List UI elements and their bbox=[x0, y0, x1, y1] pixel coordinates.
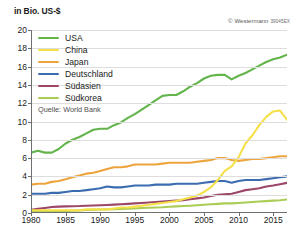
legend-color-swatch bbox=[38, 97, 59, 100]
x-axis-tick-label: 1990 bbox=[91, 215, 110, 225]
y-axis-tick-label: 16 bbox=[18, 62, 27, 72]
legend-item-südkorea[interactable]: Südkorea bbox=[38, 92, 143, 104]
gridline bbox=[31, 122, 287, 123]
legend-label: China bbox=[65, 45, 87, 55]
legend-label: Deutschland bbox=[65, 69, 113, 79]
legend-item-japan[interactable]: Japan bbox=[38, 56, 143, 68]
legend-label: Japan bbox=[65, 57, 88, 67]
x-axis-tick-label: 2010 bbox=[229, 215, 248, 225]
y-axis-tick-label: 20 bbox=[18, 25, 27, 35]
y-axis-tick-label: 12 bbox=[18, 98, 27, 108]
legend-label: Südkorea bbox=[65, 93, 102, 103]
chart-legend: USAChinaJapanDeutschlandSüdasienSüdkorea… bbox=[38, 32, 143, 114]
legend-entries: USAChinaJapanDeutschlandSüdasienSüdkorea bbox=[38, 32, 143, 104]
legend-color-swatch bbox=[38, 49, 59, 52]
copyright-credit: © Westermann 39045EX bbox=[228, 18, 290, 24]
legend-label: Südasien bbox=[65, 81, 101, 91]
y-axis-tick-label: 2 bbox=[22, 190, 27, 200]
legend-color-swatch bbox=[38, 61, 59, 64]
y-axis-tick-label: 4 bbox=[22, 171, 27, 181]
gridline bbox=[31, 158, 287, 159]
legend-item-usa[interactable]: USA bbox=[38, 32, 143, 44]
publisher-name: Westermann bbox=[234, 18, 268, 24]
legend-color-swatch bbox=[38, 37, 59, 40]
y-axis-tick-label: 18 bbox=[18, 43, 27, 53]
gridline bbox=[31, 195, 287, 196]
gridline bbox=[31, 140, 287, 141]
legend-label: USA bbox=[65, 33, 83, 43]
y-axis-tick-label: 14 bbox=[18, 80, 27, 90]
gridline bbox=[31, 176, 287, 177]
legend-color-swatch bbox=[38, 85, 59, 88]
legend-item-china[interactable]: China bbox=[38, 44, 143, 56]
legend-item-deutschland[interactable]: Deutschland bbox=[38, 68, 143, 80]
y-axis-unit-label: in Bio. US-$ bbox=[14, 6, 61, 16]
x-axis-line bbox=[31, 212, 287, 213]
y-axis-tick-label: 10 bbox=[18, 117, 27, 127]
x-axis-tick-label: 1995 bbox=[125, 215, 144, 225]
series-line-südasien bbox=[31, 183, 287, 210]
legend-color-swatch bbox=[38, 73, 59, 76]
x-axis-tick-label: 2005 bbox=[195, 215, 214, 225]
x-axis-tick-label: 2015 bbox=[264, 215, 283, 225]
publisher-code: 39045EX bbox=[270, 19, 290, 24]
x-axis-tick-label: 2000 bbox=[160, 215, 179, 225]
y-axis-tick-label: 8 bbox=[22, 135, 27, 145]
x-axis-tick-label: 1985 bbox=[56, 215, 75, 225]
legend-item-südasien[interactable]: Südasien bbox=[38, 80, 143, 92]
x-axis-tick-labels: 19801985199019952000200520102015 bbox=[31, 215, 287, 229]
y-axis-line bbox=[31, 30, 32, 213]
y-axis-tick-labels: 02468101214161820 bbox=[9, 30, 27, 213]
chart-screenshot: in Bio. US-$ © Westermann 39045EX 024681… bbox=[0, 0, 296, 243]
copyright-symbol: © bbox=[228, 18, 232, 24]
x-axis-tick-label: 1980 bbox=[22, 215, 41, 225]
gridline bbox=[31, 30, 287, 31]
y-axis-tick-label: 6 bbox=[22, 153, 27, 163]
source-note: Quelle: World Bank bbox=[38, 105, 143, 114]
